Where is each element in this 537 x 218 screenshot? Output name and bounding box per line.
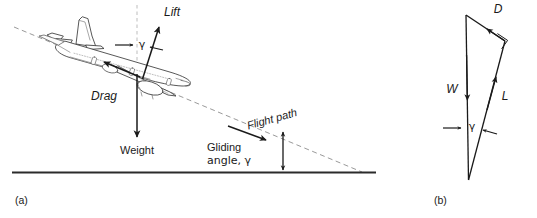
triangle-lift-side <box>469 41 506 180</box>
triangle-weight-label: W <box>446 83 457 97</box>
subfigure-caption-b: (b) <box>434 194 447 206</box>
triangle-drag-side <box>466 15 505 41</box>
triangle-weight-side <box>466 15 469 180</box>
gamma-label-triangle: γ <box>469 121 476 134</box>
gamma-label-aircraft: γ <box>139 39 146 52</box>
figure-container: Lift Drag Weight Flight path Gliding ang… <box>0 0 537 218</box>
triangle-drag-label: D <box>494 3 503 17</box>
gliding-angle-label-line2: angle, γ <box>207 155 251 168</box>
subfigure-caption-a: (a) <box>15 194 28 206</box>
figure-vector-canvas <box>0 0 537 218</box>
gliding-angle-label-line1: Gliding <box>207 141 241 154</box>
aircraft-illustration <box>39 17 190 99</box>
drag-label: Drag <box>91 90 117 104</box>
triangle-lift-label: L <box>502 90 509 104</box>
weight-label: Weight <box>120 144 154 157</box>
lift-label: Lift <box>164 6 180 20</box>
right-angle-marker <box>497 34 507 49</box>
